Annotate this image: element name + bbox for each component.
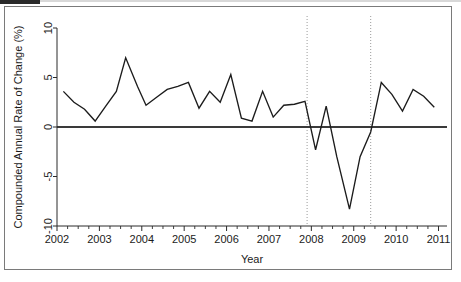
y-tick-label: -5 bbox=[42, 172, 54, 182]
x-axis bbox=[57, 226, 447, 231]
y-tick-label: 5 bbox=[42, 74, 54, 80]
x-tick-label: 2006 bbox=[214, 233, 238, 245]
x-tick-label: 2003 bbox=[87, 233, 111, 245]
figure-root: -10-50510 200220032004200520062007200820… bbox=[0, 0, 461, 282]
recession-marker-group bbox=[307, 16, 371, 226]
series-polyline bbox=[63, 58, 434, 209]
x-tick-label: 2002 bbox=[45, 233, 69, 245]
line-chart: -10-50510 200220032004200520062007200820… bbox=[0, 0, 461, 282]
x-tick-label: 2011 bbox=[427, 233, 451, 245]
x-axis-title: Year bbox=[241, 253, 264, 265]
x-tick-label: 2010 bbox=[384, 233, 408, 245]
x-axis-tick-labels: 2002200320042005200620072008200920102011 bbox=[45, 233, 451, 245]
data-series-group bbox=[63, 58, 434, 209]
x-tick-label: 2004 bbox=[130, 233, 154, 245]
y-tick-label: 0 bbox=[42, 124, 54, 130]
y-axis-tick-labels: -10-50510 bbox=[42, 22, 54, 234]
x-tick-label: 2008 bbox=[299, 233, 323, 245]
x-tick-label: 2009 bbox=[341, 233, 365, 245]
y-tick-label: -10 bbox=[42, 218, 54, 234]
y-tick-label: 10 bbox=[42, 22, 54, 34]
x-tick-label: 2007 bbox=[257, 233, 281, 245]
x-tick-label: 2005 bbox=[172, 233, 196, 245]
y-axis-title: Compounded Annual Rate of Change (%) bbox=[12, 25, 24, 228]
